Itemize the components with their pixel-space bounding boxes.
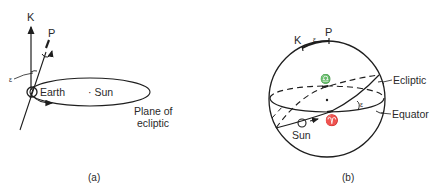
- p-label-a: P: [48, 27, 55, 39]
- epsilon-label-a: ε: [9, 76, 12, 83]
- epsilon-label-top: ε: [313, 36, 316, 43]
- p-label-b: P: [325, 26, 332, 38]
- libra-point-mark: [322, 86, 328, 87]
- p-axis-arrowhead: [46, 40, 49, 48]
- earth-label: Earth: [40, 86, 65, 98]
- libra-symbol-icon: ♎: [320, 73, 331, 84]
- sun-circle-icon: [298, 119, 306, 127]
- k-label-a: K: [27, 11, 35, 23]
- aries-symbol-icon: ♈: [325, 114, 339, 127]
- obliquity-angle-arc: [357, 101, 359, 110]
- ecliptic-leader-line: [383, 80, 392, 82]
- plane-of-ecliptic-line2: ecliptic: [137, 117, 169, 129]
- sun-label-a: · Sun: [88, 86, 113, 98]
- k-label-b: K: [294, 34, 302, 46]
- ecliptic-label: Ecliptic: [393, 74, 426, 86]
- figure-a: K P ε Earth · Sun Plane of ecliptic (a): [9, 11, 173, 183]
- diagram-canvas: K P ε Earth · Sun Plane of ecliptic (a) …: [0, 0, 434, 192]
- figure-b: K ε P ♎ ♈ Sun ε Ecliptic Equator: [269, 26, 429, 183]
- rotation-arrow-icon: [42, 51, 52, 57]
- sun-motion-arrow: [310, 119, 318, 121]
- plane-of-ecliptic-line1: Plane of: [134, 105, 173, 117]
- aries-point-mark: [327, 111, 333, 112]
- sphere-center-dot: [326, 99, 328, 101]
- caption-a: (a): [88, 172, 100, 183]
- equator-label: Equator: [392, 108, 429, 120]
- epsilon-angle-label: ε: [360, 101, 363, 108]
- sun-label-b: Sun: [292, 129, 311, 141]
- epsilon-leader-line: [14, 73, 33, 79]
- tilt-angle-arc: [31, 71, 37, 72]
- caption-b: (b): [342, 172, 354, 183]
- equator-back-dashed: [270, 86, 384, 98]
